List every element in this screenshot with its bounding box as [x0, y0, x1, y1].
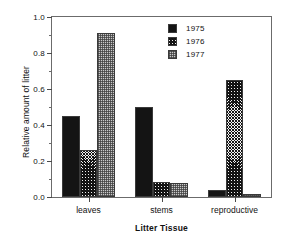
legend-item: 1976 — [168, 36, 205, 47]
legend: 1975 1976 1977 — [168, 23, 205, 62]
x-axis-tick — [235, 197, 236, 202]
legend-label-1975: 1975 — [186, 24, 205, 33]
bar-reproductive-1976 — [226, 80, 244, 197]
bar-chart-figure: Relative amount of litter 0.00.20.40.60.… — [0, 0, 287, 240]
x-axis-tick-label: leaves — [76, 205, 101, 215]
bar-reproductive-1977 — [243, 194, 261, 197]
y-axis-tick — [47, 197, 52, 198]
legend-swatch-1975 — [168, 24, 177, 33]
legend-label-1976: 1976 — [186, 37, 205, 46]
y-axis-minor-tick — [49, 143, 52, 144]
x-axis-tick — [89, 197, 90, 202]
y-axis-minor-tick — [49, 107, 52, 108]
y-axis-tick-label: 0.2 — [33, 157, 45, 166]
bar-leaves-1975 — [62, 116, 80, 197]
bar-reproductive-1975 — [208, 190, 226, 197]
y-axis-minor-tick — [49, 179, 52, 180]
legend-item: 1975 — [168, 23, 205, 34]
y-axis-title: Relative amount of litter — [21, 32, 31, 192]
x-axis-tick-label: reproductive — [211, 205, 258, 215]
plot-inner: 0.00.20.40.60.81.0leavesstemsreproductiv… — [52, 17, 271, 197]
legend-swatch-1977 — [168, 50, 177, 59]
bar-stems-1977 — [170, 183, 188, 197]
legend-swatch-1976 — [168, 37, 177, 46]
y-axis-tick-label: 0.4 — [33, 121, 45, 130]
y-axis-tick-label: 0.0 — [33, 193, 45, 202]
x-axis-tick — [162, 197, 163, 202]
y-axis-tick — [47, 89, 52, 90]
y-axis-tick — [47, 53, 52, 54]
x-axis-title: Litter Tissue — [51, 223, 272, 233]
bar-leaves-1977 — [97, 33, 115, 197]
legend-item: 1977 — [168, 49, 205, 60]
legend-label-1977: 1977 — [186, 50, 205, 59]
y-axis-minor-tick — [49, 35, 52, 36]
bar-stems-1976 — [153, 182, 171, 197]
y-axis-tick — [47, 17, 52, 18]
bar-stems-1975 — [135, 107, 153, 197]
y-axis-tick-label: 0.6 — [33, 85, 45, 94]
y-axis-tick — [47, 125, 52, 126]
bar-leaves-1976 — [80, 150, 98, 197]
x-axis-tick-label: stems — [150, 205, 173, 215]
y-axis-minor-tick — [49, 71, 52, 72]
y-axis-tick — [47, 161, 52, 162]
y-axis-tick-label: 1.0 — [33, 13, 45, 22]
plot-area: 0.00.20.40.60.81.0leavesstemsreproductiv… — [51, 16, 272, 198]
y-axis-tick-label: 0.8 — [33, 49, 45, 58]
